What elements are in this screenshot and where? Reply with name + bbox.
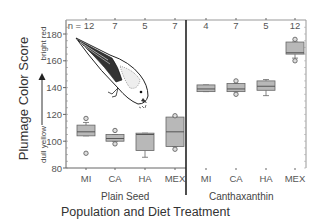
sample-size-label: 7 xyxy=(233,20,238,31)
sample-size-label: 4 xyxy=(203,20,208,31)
sample-size-label: 12 xyxy=(290,20,301,31)
sample-size-label: 5 xyxy=(142,20,147,31)
y-tick-label: 80 xyxy=(51,163,62,174)
x-category-label: MEX xyxy=(285,173,306,184)
sample-size-label: 7 xyxy=(172,20,177,31)
sample-size-label: 7 xyxy=(112,20,117,31)
box-plain-seed-mex xyxy=(166,114,184,152)
outlier-point xyxy=(84,116,88,120)
x-axis-title: Population and Diet Treatment xyxy=(61,205,230,219)
box-plain-seed-mi xyxy=(77,116,95,155)
x-category-label: HA xyxy=(259,173,273,184)
group-label-plain-seed: Plain Seed xyxy=(101,191,149,202)
group-label-canthaxanthin: Canthaxanthin xyxy=(209,191,274,202)
x-category-label: HA xyxy=(138,173,152,184)
y-tick-label: 160 xyxy=(46,55,62,66)
box-canthaxanthin-ca xyxy=(227,79,245,97)
y-tick-label: 140 xyxy=(46,82,62,93)
outlier-point xyxy=(113,128,117,132)
x-category-label: MEX xyxy=(165,173,186,184)
y-axis-title: Plumage Color Score xyxy=(16,34,31,164)
y-tick-label: 120 xyxy=(46,109,62,120)
box-canthaxanthin-ha xyxy=(257,80,275,96)
x-category-label: MI xyxy=(201,173,212,184)
sample-size-label: 5 xyxy=(263,20,268,31)
y-axis-high-label: bright red xyxy=(39,19,48,69)
x-category-label: CA xyxy=(108,173,122,184)
y-tick-label: 180 xyxy=(46,29,62,40)
sample-size-label: n = 12 xyxy=(68,20,95,31)
box-plot-chart: 80100120140160180MIn = 12CA7HA5MEX7MI4CA… xyxy=(0,0,323,221)
x-category-label: MI xyxy=(81,173,92,184)
bird-illustration xyxy=(76,38,148,108)
box-canthaxanthin-mi xyxy=(197,85,215,92)
outlier-point xyxy=(173,147,177,151)
outlier-point xyxy=(173,114,177,118)
x-category-label: CA xyxy=(229,173,243,184)
outlier-point xyxy=(113,142,117,146)
outlier-point xyxy=(234,79,238,83)
outlier-point xyxy=(293,37,297,41)
y-tick-label: 100 xyxy=(46,136,62,147)
y-axis-low-label: dull yellow xyxy=(39,120,48,170)
box-canthaxanthin-mex xyxy=(286,37,304,63)
arrow-up-icon xyxy=(39,73,46,80)
outlier-point xyxy=(84,151,88,155)
box-plain-seed-ca xyxy=(106,128,124,146)
box-plain-seed-ha xyxy=(136,133,154,157)
outlier-point xyxy=(293,59,297,63)
outlier-point xyxy=(234,92,238,96)
